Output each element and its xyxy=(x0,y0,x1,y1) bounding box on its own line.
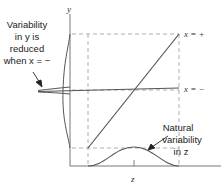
svg-text:in z: in z xyxy=(174,146,189,157)
x-plus-label: x = + xyxy=(183,29,205,39)
left-annotation: Variability in y is reduced when x = − xyxy=(3,19,51,66)
svg-text:variability: variability xyxy=(162,134,202,145)
bottom-annotation: Natural variability in z xyxy=(162,122,202,157)
variability-diagram: y z x = + x = − Variability in y is redu… xyxy=(0,0,221,187)
svg-text:reduced: reduced xyxy=(10,43,44,54)
svg-text:in y is: in y is xyxy=(15,31,40,42)
svg-text:when x = −: when x = − xyxy=(3,55,51,66)
x-minus-label: x = − xyxy=(183,84,205,94)
svg-text:Natural: Natural xyxy=(163,122,194,133)
z-distribution-curve xyxy=(88,147,179,166)
arrow-left-head-icon xyxy=(36,80,42,87)
y-axis-label: y xyxy=(66,4,71,14)
z-axis-label: z xyxy=(130,174,135,184)
svg-text:Variability: Variability xyxy=(7,19,48,30)
arrow-bottom-head-icon xyxy=(148,144,155,150)
